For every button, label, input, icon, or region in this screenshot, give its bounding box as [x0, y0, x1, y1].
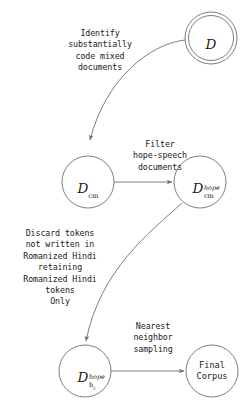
node-label-dh-hope: Dhopehr — [78, 358, 89, 384]
node-label-final-corpus: Final Corpus — [196, 360, 227, 383]
edge-label-discard-tokens: Discard tokens not written in Romanized … — [6, 228, 114, 308]
edge-label-nearest-neighbor: Nearest neighbor sampling — [113, 321, 193, 355]
node-label-dcm: Dcm — [77, 169, 98, 195]
diagram-canvas: D Dcm Dhopecm Dhopehr Final Corpus Ident… — [0, 0, 249, 417]
node-label-d: D — [206, 25, 217, 51]
edge-label-filter-hope-speech: Filter hope-speech documents — [116, 139, 204, 173]
edge-label-identify-code-mixed: Identify substantially code mixed docume… — [50, 28, 150, 74]
